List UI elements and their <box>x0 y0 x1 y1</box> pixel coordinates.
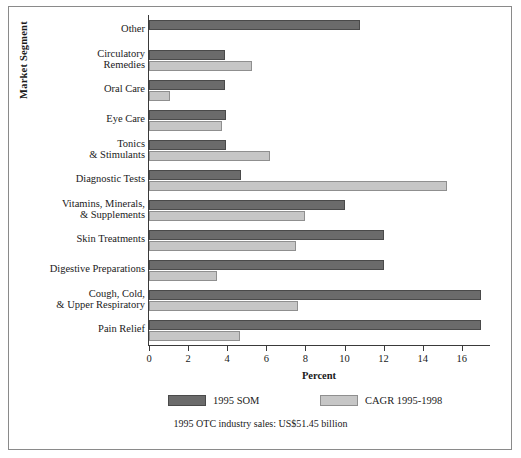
bar-som <box>149 260 384 270</box>
legend-item-som: 1995 SOM <box>168 393 259 407</box>
category-label-line: Eye Care <box>30 113 145 125</box>
category-label-line: Oral Care <box>30 83 145 95</box>
x-axis-tick-label: 12 <box>369 353 399 364</box>
category-label: Diagnostic Tests <box>30 173 145 185</box>
x-axis-tick <box>266 345 267 351</box>
x-axis-tick-label: 10 <box>330 353 360 364</box>
category-label-line: Skin Treatments <box>30 233 145 245</box>
bar-som <box>149 110 226 120</box>
bar-som <box>149 80 225 90</box>
chart-footnote: 1995 OTC industry sales: US$51.45 billio… <box>0 418 521 429</box>
legend-item-cagr: CAGR 1995-1998 <box>320 393 442 407</box>
y-axis-line <box>148 15 149 345</box>
chart-legend: 1995 SOM CAGR 1995-1998 <box>148 393 490 407</box>
bar-som <box>149 230 384 240</box>
x-axis-tick <box>188 345 189 351</box>
bar-cagr <box>149 301 298 311</box>
y-axis-title: Market Segment <box>18 0 29 120</box>
x-axis-title: Percent <box>148 370 490 381</box>
x-axis-tick-label: 2 <box>173 353 203 364</box>
category-label-line: Circulatory <box>30 48 145 60</box>
x-axis-tick <box>462 345 463 351</box>
category-label-line: & Upper Respiratory <box>30 299 145 311</box>
bar-som <box>149 320 481 330</box>
category-label: CirculatoryRemedies <box>30 48 145 71</box>
bar-som <box>149 140 226 150</box>
x-axis-tick-label: 8 <box>290 353 320 364</box>
x-axis-tick <box>227 345 228 351</box>
bar-som <box>149 200 345 210</box>
category-label-line: Other <box>30 23 145 35</box>
category-label-line: Cough, Cold, <box>30 288 145 300</box>
category-label: Other <box>30 23 145 35</box>
x-axis-tick <box>423 345 424 351</box>
x-axis-tick <box>384 345 385 351</box>
bar-som <box>149 20 360 30</box>
category-label-line: Vitamins, Minerals, <box>30 198 145 210</box>
category-label-line: & Supplements <box>30 209 145 221</box>
category-label: Digestive Preparations <box>30 263 145 275</box>
category-label: Skin Treatments <box>30 233 145 245</box>
bar-som <box>149 50 225 60</box>
category-label-line: Pain Relief <box>30 323 145 335</box>
bar-cagr <box>149 91 170 101</box>
bar-som <box>149 290 481 300</box>
x-axis-tick-label: 16 <box>447 353 477 364</box>
category-label: Oral Care <box>30 83 145 95</box>
legend-swatch-som <box>168 395 206 406</box>
x-axis-tick-label: 14 <box>408 353 438 364</box>
legend-label-som: 1995 SOM <box>213 395 259 406</box>
bar-cagr <box>149 121 222 131</box>
x-axis-tick <box>149 345 150 351</box>
x-axis-tick-label: 4 <box>212 353 242 364</box>
x-axis-line <box>148 345 490 346</box>
category-label: Vitamins, Minerals,& Supplements <box>30 198 145 221</box>
x-axis-tick <box>305 345 306 351</box>
legend-label-cagr: CAGR 1995-1998 <box>365 395 442 406</box>
bars-container <box>149 15 489 345</box>
bar-cagr <box>149 181 447 191</box>
x-axis-tick-label: 6 <box>251 353 281 364</box>
category-label-line: Diagnostic Tests <box>30 173 145 185</box>
x-axis-tick <box>345 345 346 351</box>
bar-cagr <box>149 271 217 281</box>
bar-cagr <box>149 241 296 251</box>
category-label-line: Digestive Preparations <box>30 263 145 275</box>
bar-cagr <box>149 211 305 221</box>
category-label: Eye Care <box>30 113 145 125</box>
x-axis-tick-label: 0 <box>134 353 164 364</box>
bar-som <box>149 170 241 180</box>
bar-chart: Market Segment OtherCirculatoryRemediesO… <box>0 0 521 458</box>
category-label-line: & Stimulants <box>30 149 145 161</box>
bar-cagr <box>149 331 240 341</box>
category-label-column: OtherCirculatoryRemediesOral CareEye Car… <box>30 15 145 345</box>
category-label: Tonics& Stimulants <box>30 138 145 161</box>
category-label: Cough, Cold,& Upper Respiratory <box>30 288 145 311</box>
category-label-line: Remedies <box>30 59 145 71</box>
category-label: Pain Relief <box>30 323 145 335</box>
category-label-line: Tonics <box>30 138 145 150</box>
bar-cagr <box>149 151 270 161</box>
bar-cagr <box>149 61 252 71</box>
legend-swatch-cagr <box>320 395 358 406</box>
